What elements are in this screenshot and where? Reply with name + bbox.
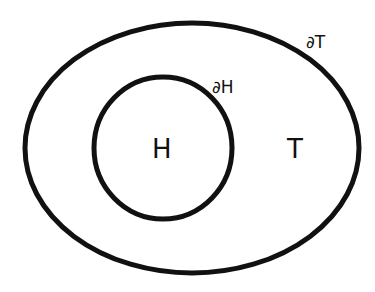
outer-region-T-boundary (25, 23, 359, 273)
outer-boundary-label: ∂T (306, 34, 325, 51)
inner-boundary-label: ∂H (212, 79, 234, 96)
inner-region-label: H (152, 136, 172, 162)
nested-region-diagram: ∂T ∂H H T (0, 0, 375, 292)
outer-region-label: T (287, 136, 303, 162)
